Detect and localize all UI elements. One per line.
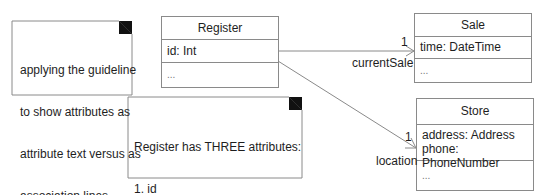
class-sale[interactable]: Sale time: DateTime ... [414,13,532,83]
class-store[interactable]: Store address: Address phone: PhoneNumbe… [416,98,534,191]
note-line: association lines [20,189,141,195]
class-attributes: id: Int [162,40,278,63]
attribute: address: Address [422,128,533,142]
guideline-note: applying the guideline to show attribute… [20,35,141,195]
class-attributes: time: DateTime [415,37,531,59]
register-attributes-note: Register has THREE attributes: 1. id 2. … [134,112,301,195]
note-line: Register has THREE attributes: [134,140,301,154]
class-operations: ... [415,59,531,82]
note-line: applying the guideline [20,63,141,77]
multiplicity-label-sale: 1 [401,35,408,49]
note-line: to show attributes as [20,105,141,119]
attribute: id: Int [167,40,278,62]
note-line: 1. id [134,182,301,195]
class-name: Sale [415,14,531,37]
class-attributes: address: Address phone: PhoneNumber [417,125,533,161]
association-register-sale [278,46,414,56]
role-label-location: location [376,154,417,168]
multiplicity-label-store: 1 [405,130,412,144]
note-line: attribute text versus as [20,147,141,161]
class-operations: ... [162,63,278,87]
class-register[interactable]: Register id: Int ... [161,16,279,88]
attribute: time: DateTime [420,37,531,58]
class-name: Register [162,17,278,40]
class-name: Store [417,99,533,125]
role-label-current-sale: currentSale [352,56,413,70]
